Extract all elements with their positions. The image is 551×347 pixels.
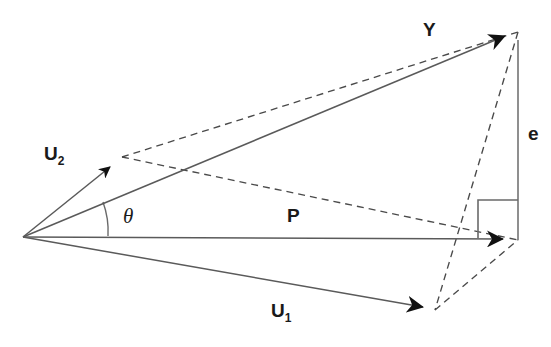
label-u2: U2 [44, 144, 64, 167]
label-u2-subscript: 2 [58, 154, 65, 168]
label-u1-subscript: 1 [285, 311, 292, 325]
label-p: P [287, 206, 300, 225]
label-e: e [528, 124, 539, 143]
vector-p-line [23, 237, 503, 239]
label-u1: U1 [271, 301, 291, 324]
right-angle-marker [478, 200, 518, 238]
label-u2-text: U [44, 143, 58, 164]
label-y: Y [423, 20, 436, 39]
vector-y-line [23, 36, 505, 237]
dashed-edge-y-to-u1 [435, 32, 518, 310]
dashed-edge-u1-to-p [435, 240, 518, 310]
theta-angle-arc [103, 202, 108, 236]
dashed-edge-u2-to-p [122, 157, 518, 240]
label-theta: θ [123, 206, 133, 227]
vector-u2-line [23, 167, 110, 237]
label-u1-text: U [271, 300, 285, 321]
vector-diagram [0, 0, 551, 347]
dashed-edge-u2-to-y [122, 32, 518, 157]
solid-vector-lines [23, 36, 518, 307]
diagram-canvas: U2 U1 P Y e θ [0, 0, 551, 347]
vector-u1-line [23, 237, 423, 307]
